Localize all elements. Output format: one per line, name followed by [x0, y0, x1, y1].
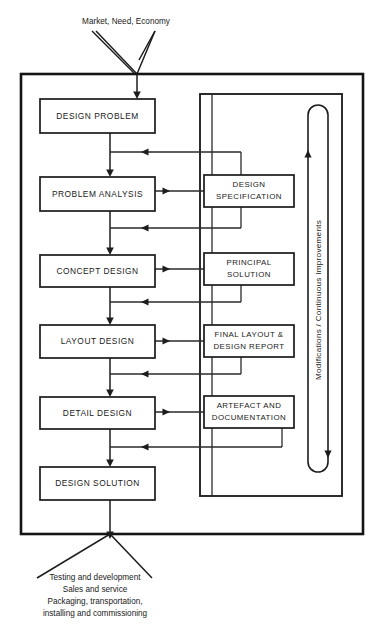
forward-arrowhead-1	[163, 187, 171, 194]
output-label-principal-solution-line2: SOLUTION	[227, 270, 271, 279]
feedback-arrowhead-1	[141, 148, 149, 155]
footer-caption-group: Testing and development Sales and servic…	[43, 573, 148, 618]
outer-frame	[21, 74, 363, 534]
stage-label-layout-design: LAYOUT DESIGN	[61, 336, 135, 346]
stage-design-problem[interactable]: DESIGN PROBLEM	[40, 99, 155, 133]
footer-line-1: Testing and development	[49, 573, 141, 582]
spine-arrowhead-1	[106, 170, 114, 178]
loop-arrowhead-up	[304, 150, 311, 158]
spine-arrowhead-3	[106, 318, 114, 326]
output-vee	[37, 534, 152, 578]
forward-arrowhead-2	[163, 265, 171, 272]
output-label-artefact-documentation-line2: DOCUMENTATION	[212, 413, 286, 422]
input-arrows-group	[92, 31, 155, 99]
feedback-arrowhead-4	[141, 370, 149, 377]
stage-label-design-solution: DESIGN SOLUTION	[55, 478, 140, 488]
stage-label-concept-design: CONCEPT DESIGN	[56, 266, 138, 276]
output-label-final-layout-report-line2: DESIGN REPORT	[213, 342, 284, 351]
footer-line-4: installing and commissioning	[43, 609, 148, 618]
output-label-design-specification-line2: SPECIFICATION	[216, 192, 282, 201]
feedback-arrowhead-3	[141, 298, 149, 305]
flowchart-canvas: Market, Need, Economy	[0, 0, 378, 626]
feedback-arrowhead-5	[141, 443, 149, 450]
spine-arrowhead-4	[106, 390, 114, 398]
feedback-arrowhead-2	[141, 224, 149, 231]
design-process-diagram: Market, Need, Economy	[0, 0, 378, 626]
spine-arrowhead-5	[106, 460, 114, 468]
output-label-principal-solution-line1: PRINCIPAL	[226, 258, 271, 267]
stage-problem-analysis[interactable]: PROBLEM ANALYSIS	[40, 177, 155, 211]
input-label: Market, Need, Economy	[82, 17, 171, 26]
output-design-specification[interactable]: DESIGN SPECIFICATION	[204, 175, 294, 207]
output-artefact-documentation[interactable]: ARTEFACT AND DOCUMENTATION	[204, 396, 294, 428]
stage-layout-design[interactable]: LAYOUT DESIGN	[40, 325, 155, 358]
continuous-improvement-label: Modifications / Continuous Improvements	[314, 220, 323, 380]
panel-bus-group	[212, 94, 282, 496]
stage-design-solution[interactable]: DESIGN SOLUTION	[40, 467, 155, 500]
spine-arrowhead-2	[106, 248, 114, 256]
loop-arrowhead-down	[324, 451, 331, 459]
output-final-layout-report[interactable]: FINAL LAYOUT & DESIGN REPORT	[204, 325, 294, 357]
footer-line-2: Sales and service	[63, 585, 128, 594]
stage-label-problem-analysis: PROBLEM ANALYSIS	[52, 189, 143, 199]
stage-label-detail-design: DETAIL DESIGN	[63, 408, 132, 418]
output-principal-solution[interactable]: PRINCIPAL SOLUTION	[204, 253, 294, 285]
stage-label-design-problem: DESIGN PROBLEM	[56, 111, 138, 121]
output-label-design-specification-line1: DESIGN	[233, 180, 266, 189]
input-arrowhead	[133, 92, 141, 100]
forward-arrowhead-3	[163, 337, 171, 344]
forward-arrowhead-4	[163, 408, 171, 415]
footer-line-3: Packaging, transportation,	[47, 597, 142, 606]
output-label-artefact-documentation-line1: ARTEFACT AND	[217, 401, 282, 410]
input-vee	[96, 31, 155, 74]
stage-detail-design[interactable]: DETAIL DESIGN	[40, 397, 155, 429]
stage-concept-design[interactable]: CONCEPT DESIGN	[40, 255, 155, 287]
output-label-final-layout-report-line1: FINAL LAYOUT &	[215, 330, 284, 339]
output-arrows-group	[37, 500, 152, 578]
input-arrow-left	[92, 31, 135, 74]
